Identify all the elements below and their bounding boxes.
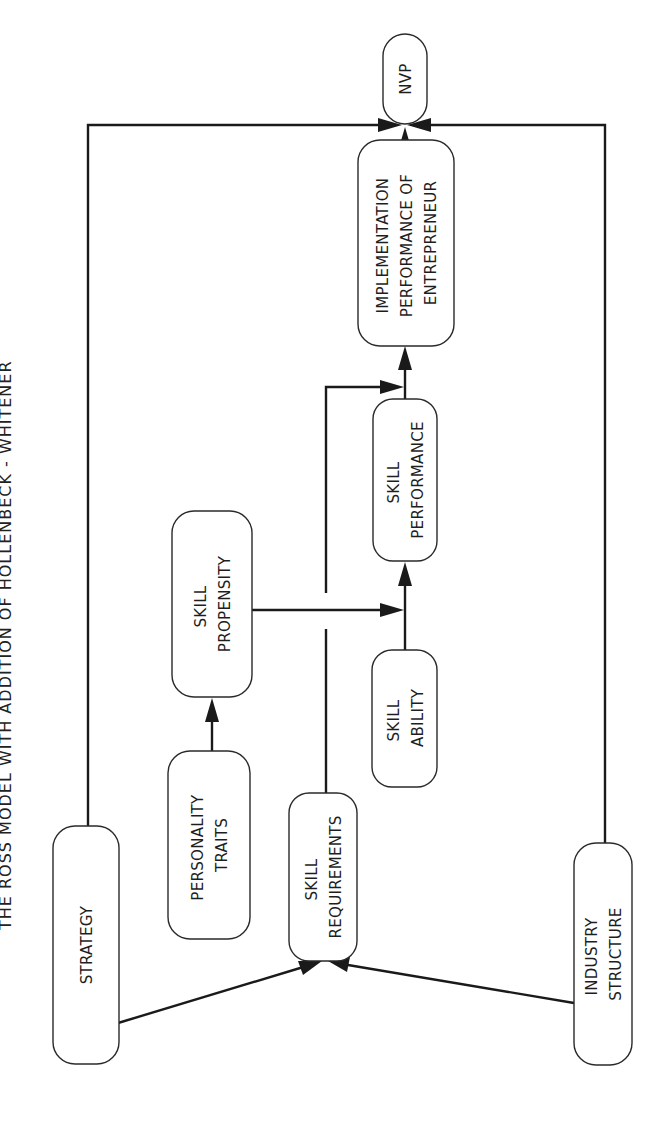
svg-text:STRATEGY: STRATEGY [78,905,96,984]
node-label: PERFORMANCE OF [398,174,416,318]
node-label: STRUCTURE [607,907,625,1000]
arrowhead-icon [398,562,412,586]
node-label: ENTREPRENEUR [422,181,440,305]
node-label: IMPLEMENTATION [374,178,392,314]
ross-model-diagram: THE ROSS MODEL WITH ADDITION OF HOLLENBE… [0,0,671,1125]
node-label: PROPENSITY [216,555,234,652]
diagram-title: THE ROSS MODEL WITH ADDITION OF HOLLENBE… [0,360,15,931]
node-industry-structure: INDUSTRY STRUCTURE [574,843,632,1065]
node-implementation: IMPLEMENTATION PERFORMANCE OF ENTREPRENE… [358,140,454,346]
svg-text:IMPLEMENTATION PERFORMAN: IMPLEMENTATION PERFORMANCE OF ENTREPRENE… [374,169,440,318]
node-label: ABILITY [409,688,427,747]
node-skill-propensity: SKILL PROPENSITY [172,511,252,697]
node-strategy: STRATEGY [53,826,119,1064]
node-skill-performance: SKILL PERFORMANCE [373,399,437,561]
node-label: INDUSTRY [583,917,601,995]
node-nvp: NVP [383,34,427,124]
node-skill-requirements: SKILL REQUIREMENTS [289,793,357,961]
svg-text:NVP: NVP [397,63,415,94]
arrowhead-icon [398,346,412,370]
node-label: TRAITS [213,818,231,873]
node-label: SKILL [192,585,210,627]
node-label: SKILL [385,461,403,503]
arrowhead-icon [380,380,404,394]
node-label: REQUIREMENTS [327,816,345,939]
edge-industry-skillreq [342,964,574,1003]
arrowhead-icon [298,961,322,975]
node-skill-ability: SKILL ABILITY [372,650,437,787]
node-label: SKILL [303,858,321,900]
arrowhead-icon [205,698,219,722]
edge-strategy-skillreq [118,965,310,1023]
edge-strategy-nvp [88,125,388,826]
node-label: PERSONALITY [189,794,207,901]
node-label: NVP [397,63,415,94]
arrowhead-icon [380,603,404,617]
node-label: PERFORMANCE [409,421,427,538]
node-personality-traits: PERSONALITY TRAITS [168,751,250,939]
node-label: SKILL [385,699,403,741]
node-label: STRATEGY [78,905,96,984]
